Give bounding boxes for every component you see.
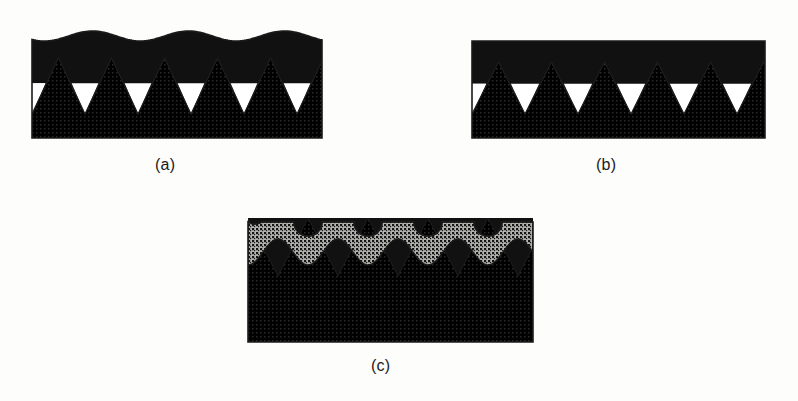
panel-a-caption: (a) <box>155 156 175 174</box>
panel-c <box>248 218 533 342</box>
panel-a <box>19 31 322 138</box>
cross-section-diagram <box>0 0 798 401</box>
panel-b <box>458 41 765 138</box>
panel-b-caption: (b) <box>596 156 616 174</box>
panel-c-caption: (c) <box>371 357 390 375</box>
figure-root: (a) (b) (c) <box>0 0 798 401</box>
